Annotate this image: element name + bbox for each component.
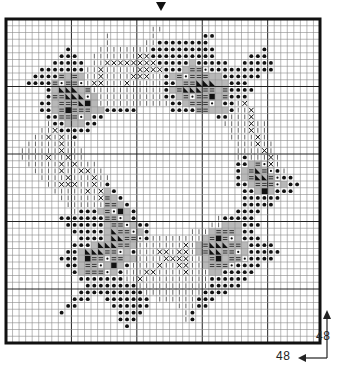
dimension-arrows-icon bbox=[0, 0, 342, 370]
height-dimension-label: 48 bbox=[316, 329, 330, 343]
width-dimension-label: 48 bbox=[276, 349, 290, 363]
